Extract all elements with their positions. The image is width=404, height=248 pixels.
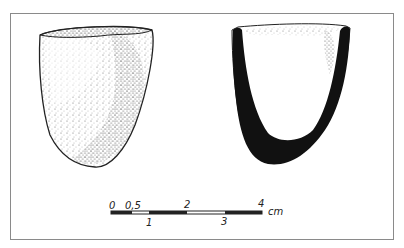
scale-label-4: 4	[258, 199, 264, 209]
section-view	[232, 24, 350, 165]
drawing-canvas	[0, 0, 404, 248]
scale-bar	[111, 211, 262, 214]
scale-label-1: 1	[146, 218, 152, 228]
scale-label-0: 0	[109, 201, 115, 211]
scale-label-0-5: 0,5	[125, 201, 141, 211]
exterior-view	[39, 27, 153, 167]
scale-label-2: 2	[184, 200, 190, 210]
scale-label-3: 3	[221, 217, 227, 227]
scale-unit: cm	[268, 207, 283, 217]
